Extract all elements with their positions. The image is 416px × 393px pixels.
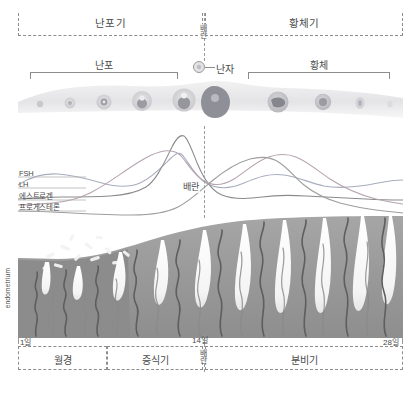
ovum-icon bbox=[192, 60, 206, 74]
ovary-cross-section bbox=[18, 78, 403, 120]
menstrual-cycle-diagram: 난포기 황체기 배란 난포 황체 난자 bbox=[0, 0, 416, 393]
stage-label-proliferative: 증식기 bbox=[107, 352, 203, 367]
ovulation-label-bottom: 배란 bbox=[198, 349, 206, 363]
hormone-label-progesterone: 프로게스테론 bbox=[19, 204, 60, 212]
bracket-label-follicle: 난포 bbox=[30, 57, 178, 72]
tick-day-28 bbox=[402, 338, 403, 344]
ovum-label: 난자 bbox=[216, 61, 246, 76]
stage-label-secretory: 분비기 bbox=[205, 352, 403, 367]
tick-day-1 bbox=[18, 338, 19, 344]
daytick-label-14: 14일 bbox=[192, 334, 208, 345]
ovum-leader-line bbox=[205, 66, 215, 69]
bracket-label-corpus-luteum: 황체 bbox=[248, 57, 390, 72]
phase-label-follicular: 난포기 bbox=[18, 15, 203, 30]
hormone-label-lh: LH bbox=[19, 181, 28, 189]
ovulation-label-chart: 배란 bbox=[182, 180, 200, 193]
ovulation-label-top: 배란 bbox=[198, 24, 206, 38]
endometrium-label: endometrium bbox=[4, 268, 11, 308]
phase-label-luteal: 황체기 bbox=[205, 15, 403, 30]
endometrium-illustration bbox=[18, 216, 403, 338]
hormone-label-estrogen: 에스트로겐 bbox=[19, 193, 53, 201]
stage-label-menstruation: 월경 bbox=[18, 352, 107, 367]
ovulation-line-chart bbox=[204, 126, 205, 218]
hormone-label-fsh: FSH bbox=[19, 170, 33, 178]
